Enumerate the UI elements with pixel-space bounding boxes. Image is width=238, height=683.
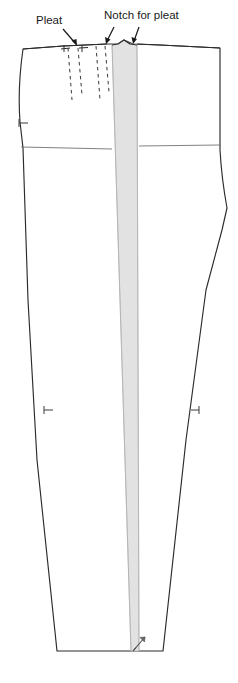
trouser-pattern-diagram: Pleat Notch for pleat bbox=[0, 0, 238, 683]
label-pleat: Pleat bbox=[36, 14, 63, 26]
label-notch-for-pleat: Notch for pleat bbox=[104, 9, 180, 21]
